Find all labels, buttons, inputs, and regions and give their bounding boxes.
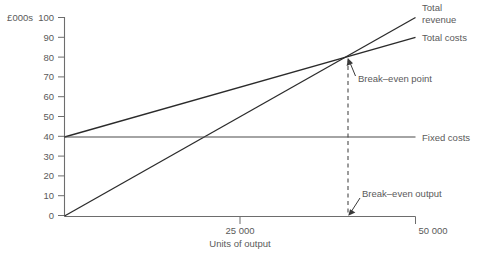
y-tick-label-60: 60 xyxy=(43,91,54,102)
x-tick-marks xyxy=(240,217,416,225)
y-tick-label-100: 100 xyxy=(38,12,54,23)
break-even-output-annotation: Break–even output xyxy=(348,188,442,216)
y-tick-label-40: 40 xyxy=(43,131,54,142)
x-tick-label-50000: 50 000 xyxy=(418,225,447,236)
series-label-total-revenue-line2: revenue xyxy=(422,14,456,25)
series-label-total-revenue-line1: Total xyxy=(422,2,442,13)
y-tick-label-10: 10 xyxy=(43,190,54,201)
break-even-point-label: Break–even point xyxy=(358,73,432,84)
series-label-total-costs: Total costs xyxy=(422,32,467,43)
y-tick-label-20: 20 xyxy=(43,170,54,181)
y-tick-label-50: 50 xyxy=(43,111,54,122)
chart-canvas: 100 90 80 70 60 50 40 30 20 10 0 £000s 2… xyxy=(0,0,480,255)
y-tick-label-0: 0 xyxy=(49,210,54,221)
break-even-point-annotation: Break–even point xyxy=(347,59,433,85)
y-tick-marks xyxy=(58,18,65,216)
y-tick-label-80: 80 xyxy=(43,52,54,63)
series-line-total-revenue xyxy=(65,18,416,217)
y-tick-label-90: 90 xyxy=(43,32,54,43)
series-line-total-costs xyxy=(65,37,416,137)
series-label-fixed-costs: Fixed costs xyxy=(422,132,470,143)
y-tick-label-70: 70 xyxy=(43,71,54,82)
y-tick-label-30: 30 xyxy=(43,151,54,162)
break-even-chart: 100 90 80 70 60 50 40 30 20 10 0 £000s 2… xyxy=(0,0,480,255)
x-tick-label-25000: 25 000 xyxy=(225,225,254,236)
y-axis-unit-label: £000s xyxy=(7,12,33,23)
x-axis-title: Units of output xyxy=(209,238,271,249)
break-even-output-label: Break–even output xyxy=(362,188,442,199)
